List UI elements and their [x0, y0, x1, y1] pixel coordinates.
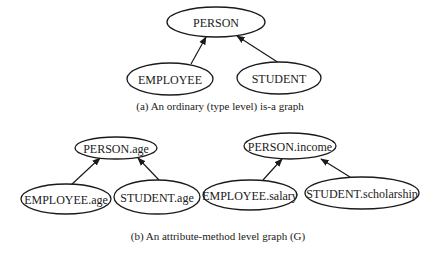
arrow-icon [321, 159, 350, 177]
node-employee: EMPLOYEE [127, 63, 213, 95]
caption-graph-b: (b) An attribute-method level graph (G) [131, 230, 305, 242]
caption-graph-a: (a) An ordinary (type level) is-a graph [136, 100, 303, 112]
node-label: PERSON.income [248, 140, 332, 154]
node-employee-salary: EMPLOYEE.salary [202, 180, 298, 210]
node-student: STUDENT [237, 62, 321, 94]
isa-edge-employee-to-person [191, 37, 206, 64]
node-label: PERSON.age [83, 142, 149, 156]
isa-edge-employee_salary-to-person_income [263, 159, 282, 180]
arrow-icon [237, 36, 279, 63]
node-employee-age: EMPLOYEE.age [21, 184, 111, 214]
node-label: EMPLOYEE.salary [202, 189, 298, 203]
arrow-icon [70, 158, 100, 186]
node-label: EMPLOYEE.age [24, 193, 108, 207]
node-label: PERSON [193, 16, 239, 30]
node-label: STUDENT.scholarship [306, 187, 417, 201]
arrow-icon [263, 159, 282, 180]
isa-graph-diagram: PERSONEMPLOYEESTUDENTPERSON.ageEMPLOYEE.… [0, 0, 432, 255]
arrow-icon [191, 37, 206, 64]
node-label: STUDENT.age [120, 191, 193, 205]
node-person: PERSON [167, 7, 265, 37]
isa-edge-student-to-person [237, 36, 279, 63]
arrow-icon [138, 158, 159, 180]
node-student-age: STUDENT.age [114, 180, 200, 214]
node-label: STUDENT [252, 72, 307, 86]
isa-edge-student_age-to-person_age [138, 158, 159, 180]
isa-edge-employee_age-to-person_age [70, 158, 100, 186]
node-student-scholarship: STUDENT.scholarship [305, 177, 419, 209]
isa-edge-student_scholarship-to-person_income [321, 159, 350, 177]
node-label: EMPLOYEE [138, 73, 202, 87]
node-person-income: PERSON.income [244, 133, 336, 159]
node-person-age: PERSON.age [75, 137, 157, 159]
